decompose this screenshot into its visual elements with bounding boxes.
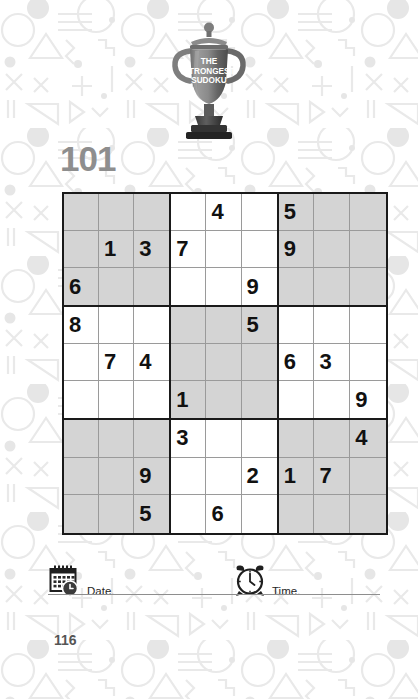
sudoku-box-2: 4 7 9 xyxy=(171,194,278,307)
sudoku-cell-r9c8[interactable] xyxy=(314,495,350,533)
sudoku-cell-r1c1[interactable] xyxy=(64,194,99,231)
sudoku-cell-r3c9[interactable] xyxy=(350,268,386,305)
sudoku-cell-r3c2[interactable] xyxy=(99,268,134,305)
sudoku-cell-r9c7[interactable] xyxy=(279,495,315,533)
sudoku-cell-r5c3[interactable]: 4 xyxy=(134,344,169,381)
sudoku-cell-r4c1[interactable]: 8 xyxy=(64,307,99,344)
sudoku-cell-r6c3[interactable] xyxy=(134,381,169,418)
sudoku-box-6: 6 3 9 xyxy=(279,307,386,420)
sudoku-cell-r8c4[interactable] xyxy=(171,458,206,496)
sudoku-cell-r1c9[interactable] xyxy=(350,194,386,231)
sudoku-cell-r5c5[interactable] xyxy=(206,344,241,381)
sudoku-cell-r4c5[interactable] xyxy=(206,307,241,344)
sudoku-cell-r5c2[interactable]: 7 xyxy=(99,344,134,381)
sudoku-cell-r6c7[interactable] xyxy=(279,381,315,418)
sudoku-cell-r2c1[interactable] xyxy=(64,231,99,268)
sudoku-cell-r7c3[interactable] xyxy=(134,420,169,458)
sudoku-cell-r1c8[interactable] xyxy=(314,194,350,231)
sudoku-cell-r7c4[interactable]: 3 xyxy=(171,420,206,458)
sudoku-cell-r7c7[interactable] xyxy=(279,420,315,458)
sudoku-cell-r8c6[interactable]: 2 xyxy=(242,458,277,496)
sudoku-cell-r3c8[interactable] xyxy=(314,268,350,305)
sudoku-cell-r8c1[interactable] xyxy=(64,458,99,496)
footer-fields: Date. Ti xyxy=(48,552,378,598)
sudoku-cell-r8c9[interactable] xyxy=(350,458,386,496)
sudoku-cell-r4c7[interactable] xyxy=(279,307,315,344)
sudoku-grid[interactable]: 1 3 6 4 7 9 5 9 xyxy=(62,192,388,535)
sudoku-cell-r1c7[interactable]: 5 xyxy=(279,194,315,231)
sudoku-cell-r4c4[interactable] xyxy=(171,307,206,344)
sudoku-cell-r7c6[interactable] xyxy=(242,420,277,458)
sudoku-cell-r4c2[interactable] xyxy=(99,307,134,344)
sudoku-cell-r7c2[interactable] xyxy=(99,420,134,458)
sudoku-cell-r9c3[interactable]: 5 xyxy=(134,495,169,533)
sudoku-cell-r1c5[interactable]: 4 xyxy=(206,194,241,231)
sudoku-cell-r6c2[interactable] xyxy=(99,381,134,418)
sudoku-cell-r6c6[interactable] xyxy=(242,381,277,418)
sudoku-cell-r2c5[interactable] xyxy=(206,231,241,268)
calendar-clock-icon xyxy=(48,564,82,598)
sudoku-cell-r1c4[interactable] xyxy=(171,194,206,231)
sudoku-box-8: 3 2 6 xyxy=(171,420,278,533)
sudoku-cell-r9c1[interactable] xyxy=(64,495,99,533)
sudoku-cell-r9c2[interactable] xyxy=(99,495,134,533)
sudoku-cell-r3c4[interactable] xyxy=(171,268,206,305)
sudoku-cell-r9c5[interactable]: 6 xyxy=(206,495,241,533)
sudoku-cell-r6c5[interactable] xyxy=(206,381,241,418)
sudoku-cell-r9c4[interactable] xyxy=(171,495,206,533)
sudoku-cell-r8c8[interactable]: 7 xyxy=(314,458,350,496)
sudoku-cell-r3c6[interactable]: 9 xyxy=(242,268,277,305)
sudoku-cell-r2c6[interactable] xyxy=(242,231,277,268)
sudoku-cell-r7c8[interactable] xyxy=(314,420,350,458)
sudoku-cell-r3c5[interactable] xyxy=(206,268,241,305)
sudoku-cell-r3c1[interactable]: 6 xyxy=(64,268,99,305)
sudoku-cell-r6c1[interactable] xyxy=(64,381,99,418)
sudoku-cell-r2c2[interactable]: 1 xyxy=(99,231,134,268)
sudoku-cell-r4c8[interactable] xyxy=(314,307,350,344)
sudoku-cell-r7c1[interactable] xyxy=(64,420,99,458)
sudoku-cell-r5c7[interactable]: 6 xyxy=(279,344,315,381)
time-label: Time. xyxy=(272,585,300,598)
sudoku-cell-r4c9[interactable] xyxy=(350,307,386,344)
sudoku-cell-r8c3[interactable]: 9 xyxy=(134,458,169,496)
page-number: 116 xyxy=(54,632,77,648)
sudoku-cell-r1c2[interactable] xyxy=(99,194,134,231)
sudoku-cell-r9c9[interactable] xyxy=(350,495,386,533)
trophy-text-line1: THE xyxy=(201,57,218,66)
sudoku-cell-r1c3[interactable] xyxy=(134,194,169,231)
sudoku-cell-r6c4[interactable]: 1 xyxy=(171,381,206,418)
sudoku-box-7: 9 5 xyxy=(64,420,171,533)
sudoku-cell-r5c6[interactable] xyxy=(242,344,277,381)
sudoku-cell-r5c9[interactable] xyxy=(350,344,386,381)
sudoku-cell-r6c9[interactable]: 9 xyxy=(350,381,386,418)
sudoku-cell-r5c8[interactable]: 3 xyxy=(314,344,350,381)
sudoku-cell-r2c8[interactable] xyxy=(314,231,350,268)
sudoku-cell-r7c9[interactable]: 4 xyxy=(350,420,386,458)
sudoku-box-5: 5 1 xyxy=(171,307,278,420)
write-in-rule xyxy=(48,594,380,595)
sudoku-cell-r8c2[interactable] xyxy=(99,458,134,496)
sudoku-cell-r2c3[interactable]: 3 xyxy=(134,231,169,268)
sudoku-cell-r3c7[interactable] xyxy=(279,268,315,305)
sudoku-cell-r5c4[interactable] xyxy=(171,344,206,381)
sudoku-cell-r7c5[interactable] xyxy=(206,420,241,458)
sudoku-cell-r3c3[interactable] xyxy=(134,268,169,305)
sudoku-cell-r5c1[interactable] xyxy=(64,344,99,381)
sudoku-box-9: 4 1 7 xyxy=(279,420,386,533)
sudoku-cell-r8c7[interactable]: 1 xyxy=(279,458,315,496)
sudoku-box-3: 5 9 xyxy=(279,194,386,307)
date-field[interactable]: Date. xyxy=(48,564,115,598)
sudoku-cell-r8c5[interactable] xyxy=(206,458,241,496)
sudoku-cell-r1c6[interactable] xyxy=(242,194,277,231)
sudoku-cell-r2c9[interactable] xyxy=(350,231,386,268)
sudoku-cell-r2c4[interactable]: 7 xyxy=(171,231,206,268)
puzzle-number: 101 xyxy=(60,141,115,176)
sudoku-cell-r6c8[interactable] xyxy=(314,381,350,418)
sudoku-cell-r2c7[interactable]: 9 xyxy=(279,231,315,268)
time-field[interactable]: Time. xyxy=(233,564,300,598)
sudoku-cell-r9c6[interactable] xyxy=(242,495,277,533)
sudoku-cell-r4c6[interactable]: 5 xyxy=(242,307,277,344)
sudoku-cell-r4c3[interactable] xyxy=(134,307,169,344)
trophy-text-line3: SUDOKU xyxy=(191,76,227,85)
sudoku-box-4: 8 7 4 xyxy=(64,307,171,420)
